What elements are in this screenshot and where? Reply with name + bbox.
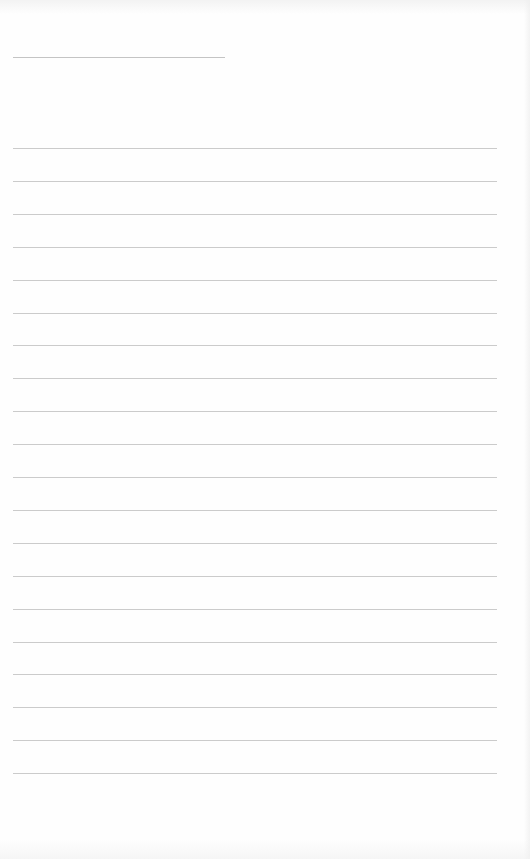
ruled-line xyxy=(13,576,497,577)
lined-paper-page xyxy=(0,0,530,859)
top-bleed-through xyxy=(0,0,530,14)
ruled-line xyxy=(13,477,497,478)
ruled-line xyxy=(13,378,497,379)
ruled-line xyxy=(13,214,497,215)
ruled-line xyxy=(13,609,497,610)
ruled-line xyxy=(13,345,497,346)
ruled-line xyxy=(13,773,497,774)
title-line xyxy=(13,57,225,58)
ruled-line xyxy=(13,707,497,708)
ruled-line xyxy=(13,247,497,248)
ruled-line xyxy=(13,280,497,281)
ruled-line xyxy=(13,313,497,314)
ruled-line xyxy=(13,411,497,412)
ruled-line xyxy=(13,444,497,445)
ruled-line xyxy=(13,543,497,544)
ruled-line xyxy=(13,740,497,741)
ruled-line xyxy=(13,674,497,675)
ruled-line xyxy=(13,148,497,149)
ruled-line xyxy=(13,642,497,643)
ruled-line xyxy=(13,181,497,182)
page-edge-shadow xyxy=(524,0,530,859)
ruled-line xyxy=(13,510,497,511)
bottom-bleed-through xyxy=(0,839,530,859)
